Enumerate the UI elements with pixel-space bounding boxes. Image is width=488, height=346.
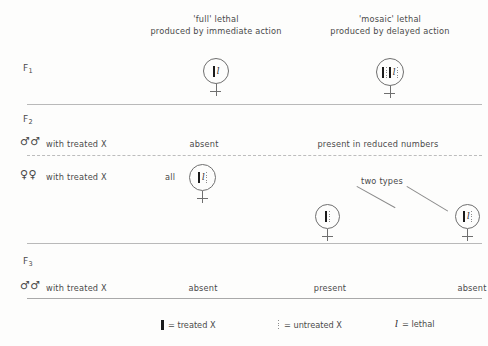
female-symbol-cross: [462, 236, 473, 237]
diagram-canvas: 'full' lethal produced by immediate acti…: [0, 0, 488, 346]
f3-males-row-label: with treated X: [46, 283, 107, 293]
chromosome-group: l: [463, 205, 472, 228]
generation-label-f2-sub: 2: [28, 118, 32, 126]
legend-item-treated-x: = treated X: [160, 320, 216, 330]
column-heading-full-line1: 'full' lethal: [193, 14, 238, 24]
column-heading-mosaic-line1: 'mosaic' lethal: [359, 14, 421, 24]
generation-label-f2: F2: [23, 114, 32, 124]
f2-females-full-qualifier: all: [165, 172, 175, 182]
f2-males-full-result: absent: [189, 139, 218, 149]
cell-circle: l: [376, 58, 404, 86]
cell-circle: l: [455, 204, 480, 229]
generation-label-f3-sub: 3: [28, 260, 32, 268]
legend-item-lethal: l = lethal: [394, 319, 434, 329]
chromosome-group: l: [198, 165, 207, 190]
legend-label-lethal: = lethal: [402, 319, 434, 329]
untreated-x-bar-icon: [206, 172, 207, 183]
lethal-l-icon: l: [202, 173, 205, 182]
f3-male-sex-symbol: ♂♂: [20, 280, 41, 291]
female-symbol-cross: [384, 93, 395, 94]
chromosome-group: l: [213, 59, 220, 83]
treated-x-bar-icon: [160, 320, 165, 330]
female-symbol-stem: [467, 229, 468, 241]
female-symbol-cross: [197, 198, 208, 199]
untreated-x-bar-icon: [276, 320, 281, 330]
f3-result-1: absent: [188, 283, 217, 293]
female-symbol-stem: [327, 229, 328, 241]
generation-label-f1: F1: [23, 63, 32, 73]
cell-circle: l: [189, 164, 216, 191]
chromosome-pair: [325, 211, 330, 222]
untreated-x-bar-icon: [471, 211, 472, 222]
legend-label-treated-x: = treated X: [168, 320, 216, 330]
legend-item-untreated-x: = untreated X: [276, 320, 342, 330]
untreated-x-bar-icon: [397, 67, 398, 78]
chromosome-pair-right: l: [389, 67, 398, 78]
generation-label-f3: F3: [23, 256, 32, 266]
treated-x-bar-icon: [198, 172, 200, 183]
lethal-l-icon: l: [467, 212, 470, 221]
column-heading-mosaic-line2: produced by delayed action: [330, 26, 449, 36]
chromosome-group: l: [382, 59, 398, 85]
f2-males-mosaic-result: present in reduced numbers: [317, 139, 438, 149]
treated-x-bar-icon: [463, 211, 465, 222]
connector-line-left: [357, 186, 396, 208]
chromosome-group: [325, 205, 330, 228]
f2-female-sex-symbol: ♀♀: [20, 169, 37, 180]
f2-male-sex-symbol: ♂♂: [20, 136, 41, 147]
chromosome-pair: l: [198, 172, 207, 183]
chromosome-pair-left: [382, 67, 387, 78]
column-heading-full-line2: produced by immediate action: [150, 26, 281, 36]
generation-label-f1-sub: 1: [28, 67, 32, 75]
female-symbol-stem: [202, 191, 203, 203]
female-symbol-cross: [210, 91, 221, 92]
treated-x-bar-icon: [213, 66, 215, 77]
female-symbol-stem: [216, 84, 217, 96]
untreated-x-bar-icon: [386, 67, 387, 78]
f2-females-mosaic-note: two types: [361, 176, 403, 186]
chromosome-pair: l: [463, 211, 472, 222]
lethal-l-icon: l: [394, 319, 399, 329]
connector-line-right: [406, 186, 448, 212]
f2-males-row-label: with treated X: [46, 139, 107, 149]
lethal-l-icon: l: [217, 67, 220, 76]
cell-circle: l: [203, 58, 229, 84]
lethal-l-icon: l: [393, 68, 396, 77]
f3-result-2: present: [314, 283, 347, 293]
divider-f3-legend: [27, 298, 482, 299]
divider-f1-f2: [27, 104, 482, 105]
treated-x-bar-icon: [389, 67, 391, 78]
cell-circle: [315, 204, 340, 229]
f2-females-row-label: with treated X: [46, 172, 107, 182]
legend-label-untreated-x: = untreated X: [284, 320, 342, 330]
treated-x-bar-icon: [325, 211, 327, 222]
female-symbol-stem: [390, 86, 391, 98]
female-symbol-cross: [322, 236, 333, 237]
divider-f2-f3: [27, 243, 482, 244]
divider-f2-males-females: [27, 155, 482, 156]
f3-result-3: absent: [457, 283, 486, 293]
chromosome-pair: l: [213, 66, 220, 77]
treated-x-bar-icon: [382, 67, 384, 78]
untreated-x-bar-icon: [329, 211, 330, 222]
